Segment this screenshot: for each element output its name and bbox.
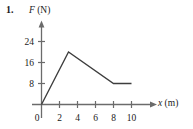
force-curve <box>42 52 132 105</box>
x-tick-label-0: 0 <box>35 113 40 123</box>
x-axis-arrowhead <box>150 102 157 108</box>
x-axis <box>32 102 157 108</box>
x-tick-label-8: 8 <box>111 113 116 123</box>
y-axis-tick-labels: 24 16 8 <box>25 37 35 89</box>
x-tick-label-10: 10 <box>127 113 137 123</box>
x-tick-label-2: 2 <box>57 113 62 123</box>
x-tick-label-4: 4 <box>75 113 80 123</box>
x-tick-label-6: 6 <box>93 113 98 123</box>
y-tick-label-8: 8 <box>29 79 34 89</box>
x-axis-tick-labels: 0 2 4 6 8 10 <box>35 113 137 123</box>
y-tick-label-16: 16 <box>25 58 35 68</box>
y-tick-label-24: 24 <box>25 37 35 47</box>
figure-container: 1. F (N) x (m) 24 16 8 <box>0 0 193 129</box>
y-axis-arrowhead <box>39 21 45 28</box>
force-position-plot: 24 16 8 0 2 4 6 8 10 <box>0 0 193 129</box>
